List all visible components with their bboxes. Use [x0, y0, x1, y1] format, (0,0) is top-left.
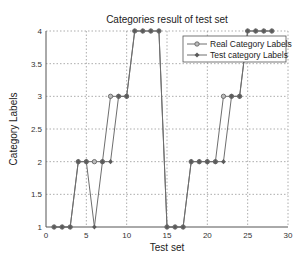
x-tick-label: 10 — [122, 231, 131, 240]
y-tick-label: 2 — [38, 158, 43, 167]
y-tick-label: 4 — [38, 27, 43, 36]
x-tick-label: 0 — [44, 231, 49, 240]
legend-label-real: Real Category Labels — [210, 39, 292, 49]
legend-marker-real-icon — [195, 42, 199, 46]
x-tick-label: 5 — [84, 231, 89, 240]
y-tick-label: 3.5 — [31, 60, 43, 69]
data-point-real — [108, 94, 112, 98]
x-axis-label: Test set — [150, 242, 185, 253]
chart: Categories result of test set 0510152025… — [0, 0, 305, 265]
y-tick-label: 1 — [38, 223, 43, 232]
x-tick-label: 20 — [203, 231, 212, 240]
y-tick-label: 2.5 — [31, 125, 43, 134]
y-axis-label: Category Labels — [8, 93, 19, 166]
x-tick-label: 25 — [243, 231, 252, 240]
legend-label-test: Test category Labels — [210, 50, 288, 60]
legend: Real Category Labels Test category Label… — [183, 36, 292, 62]
x-tick-label: 30 — [284, 231, 293, 240]
data-point-real — [92, 159, 96, 163]
y-tick-label: 1.5 — [31, 190, 43, 199]
x-tick-label: 15 — [163, 231, 172, 240]
data-point-real — [221, 94, 225, 98]
y-tick-label: 3 — [38, 92, 43, 101]
chart-title: Categories result of test set — [106, 14, 228, 25]
